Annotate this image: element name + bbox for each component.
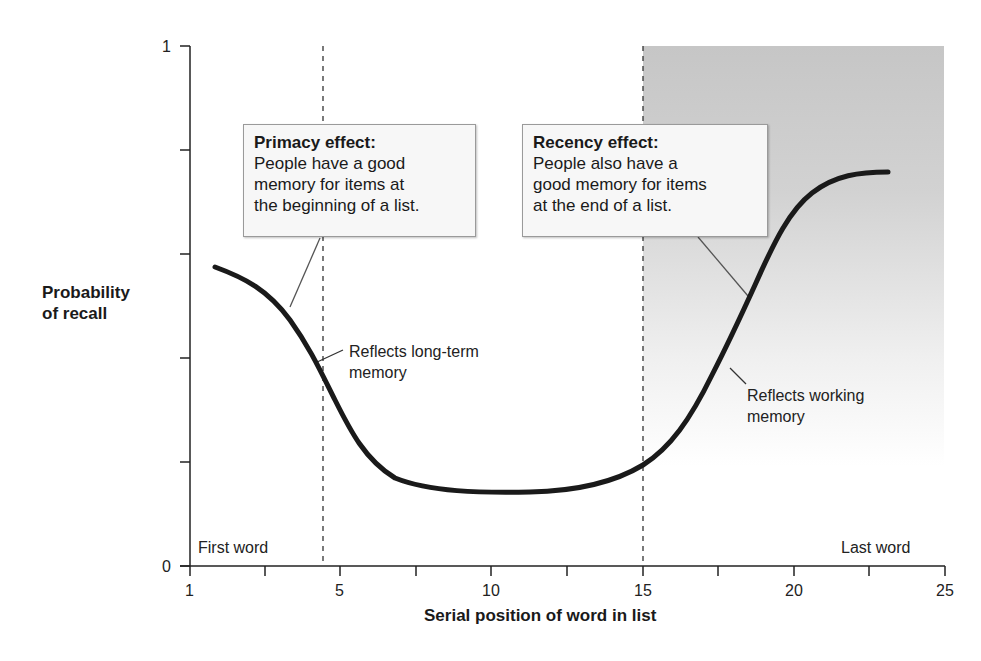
x-ticks (190, 566, 945, 576)
chart-canvas: 1 0 1 5 10 15 20 25 (0, 0, 981, 661)
primacy-callout-title: Primacy effect: (254, 132, 465, 153)
y-axis-label-line: Probability (42, 282, 130, 303)
x-tick-label: 1 (185, 582, 194, 599)
recency-callout: Recency effect: People also have a good … (522, 124, 768, 237)
first-word-label: First word (198, 539, 268, 557)
long-term-memory-annotation: Reflects long-term memory (349, 341, 479, 383)
x-axis-label: Serial position of word in list (424, 606, 656, 626)
annotation-line: Reflects working (747, 385, 864, 406)
recency-callout-line: good memory for items (533, 174, 757, 195)
working-memory-annotation: Reflects working memory (747, 385, 864, 427)
y-axis-label: Probability of recall (42, 282, 130, 324)
y-tick-label-top: 1 (162, 38, 171, 55)
primacy-callout-line: memory for items at (254, 174, 465, 195)
annotation-line: memory (349, 362, 479, 383)
x-tick-label: 15 (634, 582, 652, 599)
last-word-label: Last word (841, 539, 910, 557)
long-term-pointer (315, 350, 343, 363)
annotation-line: memory (747, 406, 864, 427)
y-axis-label-line: of recall (42, 303, 130, 324)
primacy-callout-line: the beginning of a list. (254, 195, 465, 216)
x-tick-label: 10 (482, 582, 500, 599)
x-tick-label: 20 (785, 582, 803, 599)
recency-callout-title: Recency effect: (533, 132, 757, 153)
recency-callout-line: at the end of a list. (533, 195, 757, 216)
primacy-pointer (290, 238, 320, 307)
recency-callout-line: People also have a (533, 153, 757, 174)
primacy-callout-line: People have a good (254, 153, 465, 174)
y-tick-label-bottom: 0 (162, 558, 171, 575)
y-ticks (180, 46, 190, 566)
annotation-line: Reflects long-term (349, 341, 479, 362)
primacy-callout: Primacy effect: People have a good memor… (243, 124, 476, 237)
x-tick-label: 5 (335, 582, 344, 599)
x-tick-label: 25 (936, 582, 954, 599)
